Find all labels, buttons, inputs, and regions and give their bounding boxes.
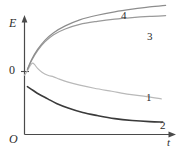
curve-2-path: [27, 87, 162, 122]
curve-4-path: [27, 5, 165, 69]
curve-1-label: 1: [146, 92, 152, 103]
curve-3-path: [27, 16, 165, 70]
curves-group: [25, 5, 166, 122]
chart-canvas: [0, 0, 182, 156]
y-axis-arrowhead: [22, 15, 28, 23]
origin-label: O: [9, 133, 18, 145]
curve-2-label: 2: [160, 120, 166, 131]
y-axis-zero-label: 0: [9, 64, 15, 76]
curve-3-label: 3: [147, 31, 153, 42]
x-axis-label: t: [167, 137, 170, 148]
curve-1-path: [25, 63, 162, 99]
energy-vs-time-chart: E 0 O t 1 2 3 4: [0, 0, 182, 156]
y-axis-label: E: [9, 17, 16, 29]
curve-4-label: 4: [121, 10, 127, 21]
